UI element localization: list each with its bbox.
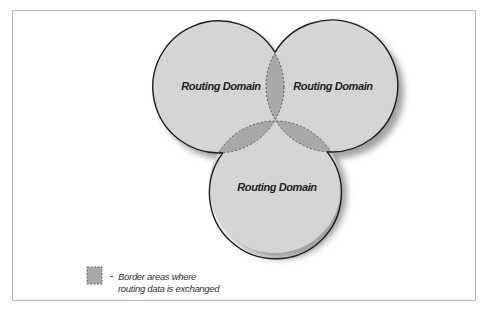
legend-text: Border areas where routing data is excha…: [118, 271, 219, 295]
legend-line-1: Border areas where: [118, 271, 219, 283]
routing-domains-diagram: Routing Domain Routing Domain Routing Do…: [0, 0, 486, 310]
legend-line-2: routing data is exchanged: [118, 283, 219, 295]
domain-label-left: Routing Domain: [181, 80, 261, 92]
legend-swatch-icon: [87, 267, 102, 284]
domain-label-right: Routing Domain: [293, 80, 373, 92]
domain-label-bottom: Routing Domain: [237, 181, 317, 193]
legend-dash: -: [110, 270, 113, 281]
